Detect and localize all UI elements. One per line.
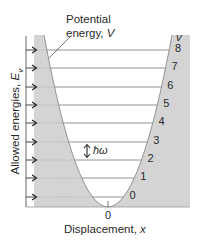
quantum-number-label: 8 bbox=[175, 43, 181, 54]
quantum-number-label: 2 bbox=[147, 153, 153, 164]
potential-leader-line bbox=[49, 37, 70, 58]
quantum-number-label: 4 bbox=[159, 116, 165, 127]
quantum-number-label: 6 bbox=[167, 80, 173, 91]
quantum-number-label: 1 bbox=[140, 171, 146, 182]
spacing-label: ħω bbox=[93, 145, 108, 156]
potential-label: Potential energy, V bbox=[66, 12, 114, 40]
quantum-number-label: 5 bbox=[163, 98, 169, 109]
quantum-number-label: 3 bbox=[153, 135, 159, 146]
potential-label-line2: energy, V bbox=[66, 26, 114, 40]
y-axis-label: Allowed energies, Ev bbox=[9, 47, 24, 197]
spacing-arrow bbox=[84, 145, 90, 158]
x-origin-label: 0 bbox=[105, 210, 111, 221]
quantum-number-label: 7 bbox=[171, 61, 177, 72]
quantum-number-label: 0 bbox=[129, 190, 135, 201]
potential-label-line1: Potential bbox=[66, 12, 114, 26]
x-axis-label: Displacement, x bbox=[64, 224, 146, 236]
